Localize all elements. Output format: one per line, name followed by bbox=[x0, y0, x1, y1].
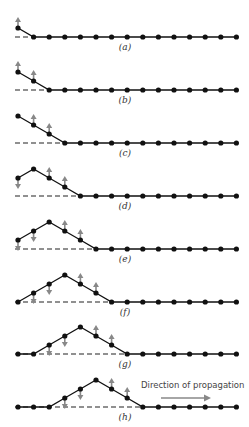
string-particle bbox=[15, 69, 20, 74]
string-particle bbox=[156, 246, 161, 251]
string-particle bbox=[78, 281, 83, 286]
string-particle bbox=[31, 228, 36, 233]
string-particle bbox=[203, 246, 208, 251]
string-particle bbox=[171, 246, 176, 251]
string-particle bbox=[140, 87, 145, 92]
string-particle bbox=[109, 342, 114, 347]
string-particle bbox=[15, 25, 20, 30]
string-particle bbox=[218, 87, 223, 92]
string-particle bbox=[15, 351, 20, 356]
string-particle bbox=[234, 193, 239, 198]
string-particle bbox=[234, 404, 239, 409]
string-particle bbox=[234, 87, 239, 92]
string-particle bbox=[31, 404, 36, 409]
propagation-arrow-icon bbox=[161, 395, 211, 402]
string-particle bbox=[125, 34, 130, 39]
string-particle bbox=[125, 87, 130, 92]
string-particle bbox=[140, 34, 145, 39]
string-particle bbox=[125, 193, 130, 198]
string-particle bbox=[140, 140, 145, 145]
string-particle bbox=[78, 87, 83, 92]
string-particle bbox=[203, 404, 208, 409]
string-line bbox=[18, 72, 236, 90]
string-particle bbox=[125, 299, 130, 304]
string-particle bbox=[171, 34, 176, 39]
string-particle bbox=[171, 193, 176, 198]
string-particle bbox=[187, 351, 192, 356]
string-particle bbox=[109, 193, 114, 198]
string-particle bbox=[218, 246, 223, 251]
row-label: (b) bbox=[119, 95, 132, 105]
string-particle bbox=[234, 351, 239, 356]
string-particle bbox=[31, 78, 36, 83]
string-row-d bbox=[15, 166, 239, 198]
string-particle bbox=[156, 34, 161, 39]
string-particle bbox=[140, 351, 145, 356]
string-particle bbox=[203, 193, 208, 198]
string-particle bbox=[78, 140, 83, 145]
string-line bbox=[18, 169, 236, 196]
string-particle bbox=[93, 87, 98, 92]
string-particle bbox=[218, 34, 223, 39]
string-particle bbox=[203, 87, 208, 92]
string-particle bbox=[47, 219, 52, 224]
string-particle bbox=[156, 193, 161, 198]
string-particle bbox=[31, 122, 36, 127]
string-particle bbox=[15, 113, 20, 118]
row-label: (f) bbox=[120, 307, 130, 317]
string-particle bbox=[234, 34, 239, 39]
string-particle bbox=[47, 404, 52, 409]
string-particle bbox=[31, 351, 36, 356]
string-particle bbox=[109, 34, 114, 39]
string-particle bbox=[125, 140, 130, 145]
string-particle bbox=[93, 246, 98, 251]
string-particle bbox=[62, 184, 67, 189]
string-particle bbox=[218, 193, 223, 198]
string-particle bbox=[93, 333, 98, 338]
string-particle bbox=[187, 140, 192, 145]
string-particle bbox=[171, 299, 176, 304]
string-particle bbox=[125, 395, 130, 400]
string-particle bbox=[171, 87, 176, 92]
string-particle bbox=[234, 140, 239, 145]
string-particle bbox=[47, 131, 52, 136]
string-particle bbox=[109, 299, 114, 304]
string-particle bbox=[93, 193, 98, 198]
row-label: (h) bbox=[119, 412, 132, 422]
string-row-g bbox=[15, 324, 239, 356]
row-label: (e) bbox=[119, 254, 131, 264]
string-row-c bbox=[15, 113, 239, 145]
string-particle bbox=[109, 87, 114, 92]
string-particle bbox=[203, 140, 208, 145]
string-particle bbox=[109, 140, 114, 145]
row-label: (a) bbox=[119, 42, 131, 52]
string-particle bbox=[218, 404, 223, 409]
string-particle bbox=[187, 193, 192, 198]
string-particle bbox=[187, 299, 192, 304]
string-line bbox=[18, 275, 236, 302]
string-particle bbox=[47, 34, 52, 39]
string-particle bbox=[62, 34, 67, 39]
string-particle bbox=[203, 34, 208, 39]
string-particle bbox=[62, 228, 67, 233]
string-particle bbox=[125, 351, 130, 356]
string-particle bbox=[15, 299, 20, 304]
string-particle bbox=[187, 246, 192, 251]
string-particle bbox=[15, 175, 20, 180]
string-particle bbox=[218, 140, 223, 145]
string-particle bbox=[203, 351, 208, 356]
string-particle bbox=[62, 333, 67, 338]
string-line bbox=[18, 327, 236, 354]
string-particle bbox=[218, 351, 223, 356]
string-particle bbox=[62, 87, 67, 92]
string-particle bbox=[156, 351, 161, 356]
string-particle bbox=[109, 246, 114, 251]
string-particle bbox=[140, 299, 145, 304]
string-line bbox=[18, 116, 236, 143]
string-line bbox=[18, 222, 236, 249]
string-particle bbox=[62, 395, 67, 400]
string-particle bbox=[234, 246, 239, 251]
string-particle bbox=[156, 299, 161, 304]
string-particle bbox=[15, 237, 20, 242]
string-particle bbox=[62, 140, 67, 145]
